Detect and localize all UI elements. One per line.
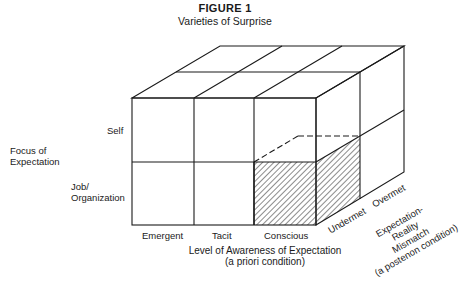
y-axis-title: Focus of Expectation bbox=[10, 145, 60, 167]
row-label-self: Self bbox=[107, 125, 123, 136]
x-axis-title: Level of Awareness of Expectation (a pri… bbox=[150, 245, 380, 267]
hatched-front-face bbox=[254, 162, 316, 225]
hatched-top-dashed-edge bbox=[254, 136, 298, 162]
column-label-conscious: Conscious bbox=[264, 230, 308, 241]
row-label-job-organization: Job/ Organization bbox=[71, 181, 125, 203]
column-label-tacit: Tacit bbox=[212, 230, 232, 241]
column-label-emergent: Emergent bbox=[142, 230, 183, 241]
